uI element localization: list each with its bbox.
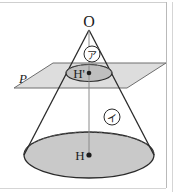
point-marker-h-prime: [87, 71, 92, 76]
region-lower-callout-label: イ: [107, 113, 117, 124]
region-lower-callout: イ: [104, 109, 120, 125]
label-base-center-h: H: [75, 148, 84, 163]
figure-frame: O P H' H ア イ: [0, 0, 180, 192]
point-marker-h: [86, 152, 91, 157]
region-upper-callout-label: ア: [87, 50, 97, 61]
label-small-center-h-prime: H': [73, 66, 85, 81]
label-plane-p: P: [18, 71, 27, 86]
region-upper-callout: ア: [84, 46, 100, 62]
label-apex-o: O: [83, 13, 95, 30]
cone-plane-diagram: O P H' H ア イ: [0, 0, 180, 192]
